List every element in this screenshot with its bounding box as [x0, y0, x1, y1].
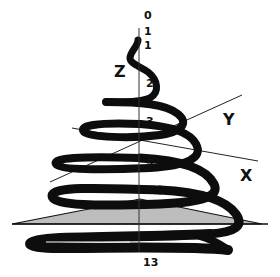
- z-axis-label: Z: [114, 64, 126, 80]
- z-tick-label: 0: [144, 10, 152, 21]
- z-tick-label: 2: [146, 78, 154, 89]
- z-tick-label: 1: [144, 26, 152, 37]
- x-axis-label: X: [240, 168, 252, 184]
- z-tick-label: 5: [146, 158, 154, 169]
- z-tick-label: 1: [144, 40, 152, 51]
- z-tick-label: 13: [143, 257, 158, 268]
- y-axis-label: Y: [223, 112, 235, 128]
- helix-diagram: Z Y X 0 1 1 2 3 5 13: [0, 0, 280, 277]
- z-tick-label: 3: [146, 116, 154, 127]
- diagram-canvas: [0, 0, 280, 277]
